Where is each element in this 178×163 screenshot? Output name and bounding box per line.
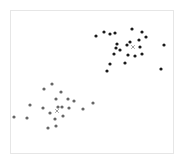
data-point-cluster-2: [50, 82, 53, 85]
data-point-cluster-2: [12, 115, 15, 118]
data-point-cluster-1: [162, 43, 165, 46]
data-point-cluster-2: [54, 97, 57, 100]
data-point-cluster-2: [91, 101, 94, 104]
data-point-cluster-2: [28, 103, 31, 106]
data-point-cluster-1: [137, 38, 140, 41]
data-point-cluster-2: [41, 106, 44, 109]
data-point-cluster-1: [140, 30, 143, 33]
data-point-cluster-1: [130, 27, 133, 30]
data-point-cluster-1: [102, 30, 105, 33]
data-point-cluster-2: [67, 106, 70, 109]
scatter-chart: [0, 0, 178, 163]
centroid-x-icon: [131, 45, 135, 49]
centroid-x-icon: [55, 109, 59, 113]
data-point-cluster-1: [133, 54, 136, 57]
data-point-cluster-2: [66, 97, 69, 100]
data-point-cluster-2: [46, 126, 49, 129]
data-point-cluster-1: [159, 67, 162, 70]
data-point-cluster-1: [128, 40, 131, 43]
data-point-cluster-2: [48, 111, 51, 114]
data-point-cluster-1: [126, 53, 129, 56]
data-point-cluster-1: [113, 31, 116, 34]
data-point-cluster-1: [118, 48, 121, 51]
data-point-cluster-2: [59, 90, 62, 93]
data-point-cluster-1: [140, 52, 143, 55]
data-point-cluster-2: [72, 99, 75, 102]
data-point-cluster-2: [56, 105, 59, 108]
data-point-cluster-1: [114, 46, 117, 49]
data-point-cluster-2: [61, 114, 64, 117]
data-point-cluster-2: [42, 87, 45, 90]
data-point-cluster-1: [112, 52, 115, 55]
data-point-cluster-2: [53, 117, 56, 120]
data-point-cluster-1: [105, 69, 108, 72]
data-point-cluster-1: [115, 42, 118, 45]
data-point-cluster-1: [138, 45, 141, 48]
data-point-cluster-1: [144, 35, 147, 38]
plot-frame: [11, 11, 174, 154]
data-point-cluster-1: [108, 62, 111, 65]
data-point-cluster-2: [54, 124, 57, 127]
data-point-cluster-1: [123, 61, 126, 64]
data-points: [12, 27, 165, 129]
data-point-cluster-2: [81, 107, 84, 110]
data-point-cluster-2: [25, 116, 28, 119]
data-point-cluster-2: [60, 105, 63, 108]
centroid-markers: [55, 45, 135, 113]
data-point-cluster-1: [94, 34, 97, 37]
data-point-cluster-1: [125, 43, 128, 46]
data-point-cluster-1: [108, 32, 111, 35]
